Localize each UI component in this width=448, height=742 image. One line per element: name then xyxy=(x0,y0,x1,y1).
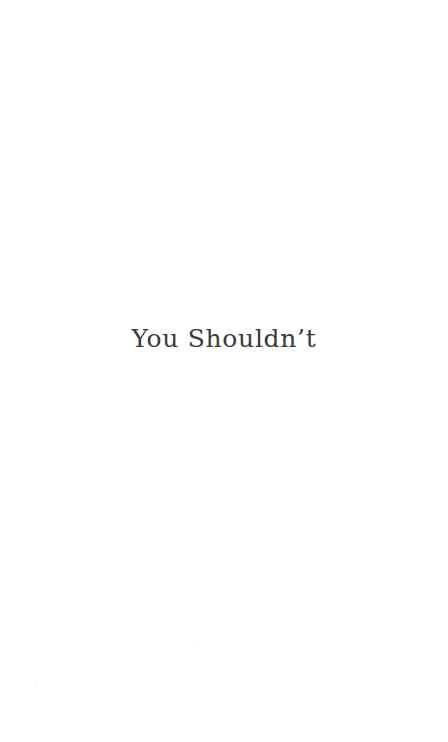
chapter-title-block: You Shouldn’t xyxy=(0,0,448,352)
scan-artifact-upper xyxy=(192,643,197,646)
book-page: You Shouldn’t xyxy=(0,0,448,742)
scan-artifact-lower xyxy=(33,683,37,687)
page-title: You Shouldn’t xyxy=(131,326,316,351)
